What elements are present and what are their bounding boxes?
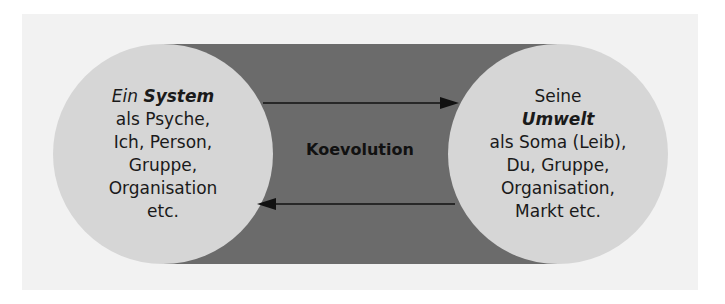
arrow-left-icon: [257, 198, 455, 210]
arrow-right-icon: [263, 97, 459, 109]
coevolution-label: Koevolution: [280, 140, 440, 159]
